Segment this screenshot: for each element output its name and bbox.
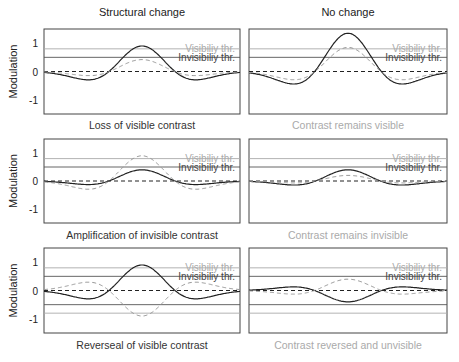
y-tick: 0	[32, 286, 38, 297]
panel-caption: Amplification of invisible contrast	[66, 229, 218, 241]
panel-caption: Contrast reversed and unvisible	[274, 339, 422, 351]
invisibility-threshold-label: Invisibiliy thr.	[385, 271, 442, 282]
y-tick: 1	[32, 38, 38, 49]
y-tick: 1	[32, 257, 38, 268]
y-tick: -1	[29, 314, 38, 325]
y-axis-label: Modulation	[7, 45, 19, 99]
column-title-left: Structural change	[99, 6, 185, 18]
invisibility-threshold-label: Invisibiliy thr.	[385, 162, 442, 173]
panel-caption: Contrast remains invisible	[288, 229, 408, 241]
invisibility-threshold-label: Invisibiliy thr.	[385, 52, 442, 63]
y-tick: -1	[29, 204, 38, 215]
panel-caption: Reverseal of visible contrast	[76, 339, 207, 351]
panel-caption: Contrast remains visible	[292, 119, 404, 131]
invisibility-threshold-label: Invisibiliy thr.	[178, 52, 235, 63]
y-axis-label: Modulation	[7, 154, 19, 208]
y-tick: 0	[32, 67, 38, 78]
y-tick: -1	[29, 95, 38, 106]
invisibility-threshold-label: Invisibiliy thr.	[178, 271, 235, 282]
column-title-right: No change	[321, 6, 374, 18]
panel-caption: Loss of visible contrast	[89, 119, 195, 131]
y-axis-label: Modulation	[7, 264, 19, 318]
figure: Structural changeNo changeVisibiliy thr.…	[0, 0, 459, 362]
invisibility-threshold-label: Invisibiliy thr.	[178, 162, 235, 173]
y-tick: 0	[32, 176, 38, 187]
y-tick: 1	[32, 148, 38, 159]
